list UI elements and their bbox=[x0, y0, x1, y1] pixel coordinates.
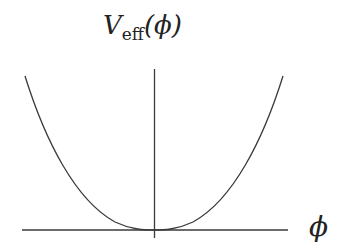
x-axis-label: ϕ bbox=[309, 210, 328, 243]
potential-plot bbox=[0, 0, 342, 248]
